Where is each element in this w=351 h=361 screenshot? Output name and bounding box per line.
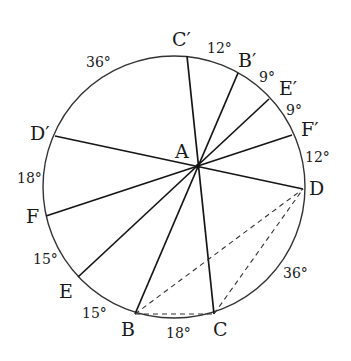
point-a-dot [196,164,200,168]
point-label: B [121,318,135,340]
chord-1 [135,73,238,314]
angle-label: 36° [283,265,308,281]
dashed-segments-group [135,189,303,314]
angle-label: 15° [82,305,107,321]
angle-label: 12° [207,40,232,56]
angle-label: 15° [33,251,58,267]
point-label: D [309,177,324,199]
point-label: E′ [279,77,297,99]
chord-2 [78,99,269,277]
point-label: F [26,205,39,227]
point-label: D′ [30,122,50,144]
chord-3 [46,135,292,216]
chords-group [46,56,303,314]
point-label: C [213,318,228,340]
circle-chord-diagram: AC′B′E′F′DCBEFD′ 36°12°9°9°12°36°18°15°1… [0,0,351,361]
point-label: F′ [301,118,319,140]
point-label: C′ [172,28,191,50]
angle-label: 18° [166,325,191,341]
point-label: B′ [238,49,256,71]
angle-label: 9° [286,102,302,118]
dashed-segment-1 [135,189,303,314]
angle-label: 18° [17,170,42,186]
angle-label: 36° [86,54,111,70]
angle-label: 9° [259,69,275,85]
angle-label: 12° [305,149,330,165]
point-label: E [59,280,73,302]
point-label: A [174,140,189,162]
dashed-segment-2 [214,189,303,314]
